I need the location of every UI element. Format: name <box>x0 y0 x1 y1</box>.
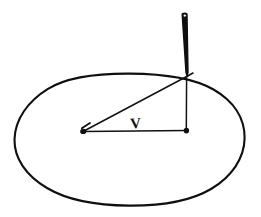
background-rect <box>0 0 261 217</box>
right-pivot-marker <box>184 128 189 134</box>
rod-eyelet-icon <box>183 14 186 17</box>
angle-label-v: V <box>130 115 142 132</box>
left-pivot-marker <box>80 129 86 134</box>
line-drawing-svg: V <box>0 0 261 217</box>
figure-canvas: V <box>0 0 261 217</box>
